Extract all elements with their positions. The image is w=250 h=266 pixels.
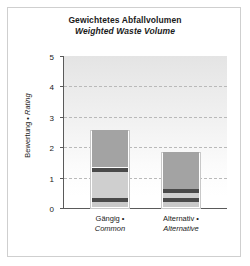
bar-segment xyxy=(92,198,128,203)
chart-title-german: Gewichtetes Abfallvolumen xyxy=(8,15,242,26)
y-tick-label: 2 xyxy=(50,144,54,153)
bar-segment xyxy=(92,202,128,207)
y-tick-mark: 4 xyxy=(60,86,64,87)
y-tick-mark: 0 xyxy=(60,208,64,209)
y-tick-label: 3 xyxy=(50,113,54,122)
bar-segment xyxy=(92,172,128,198)
gridline xyxy=(64,117,227,118)
bar-segment xyxy=(163,189,199,194)
y-axis-label: Bewertung • Rating xyxy=(23,66,32,186)
bar-segment xyxy=(163,198,199,203)
bar[interactable] xyxy=(162,153,200,208)
x-axis-label-german: Alternativ • xyxy=(133,214,229,224)
bar-segment xyxy=(92,130,128,167)
y-axis-label-english: Rating xyxy=(23,93,32,115)
y-tick-label: 5 xyxy=(50,53,54,62)
y-tick-mark: 3 xyxy=(60,117,64,118)
x-axis-label-english: Alternative xyxy=(133,224,229,234)
y-tick-mark: 5 xyxy=(60,56,64,57)
x-axis-label: Alternativ •Alternative xyxy=(133,214,229,234)
y-tick-mark: 1 xyxy=(60,178,64,179)
y-tick-label: 1 xyxy=(50,174,54,183)
bar-segment xyxy=(163,193,199,198)
y-tick-mark: 2 xyxy=(60,147,64,148)
plot-area: 012345 Gängig •CommonAlternativ •Alterna… xyxy=(63,56,227,209)
gridline xyxy=(64,178,227,179)
y-tick-label: 0 xyxy=(50,205,54,214)
chart-figure: Gewichtetes Abfallvolumen Weighted Waste… xyxy=(7,7,241,257)
y-axis-label-german: Bewertung • xyxy=(23,117,32,158)
bar-segment xyxy=(163,202,199,207)
bar-segment xyxy=(163,152,199,189)
bar-segment xyxy=(92,168,128,173)
chart-title-block: Gewichtetes Abfallvolumen Weighted Waste… xyxy=(8,15,242,37)
gridline xyxy=(64,147,227,148)
bar[interactable] xyxy=(91,131,129,208)
gridline xyxy=(64,86,227,87)
chart-title-english: Weighted Waste Volume xyxy=(8,26,242,37)
y-tick-label: 4 xyxy=(50,83,54,92)
